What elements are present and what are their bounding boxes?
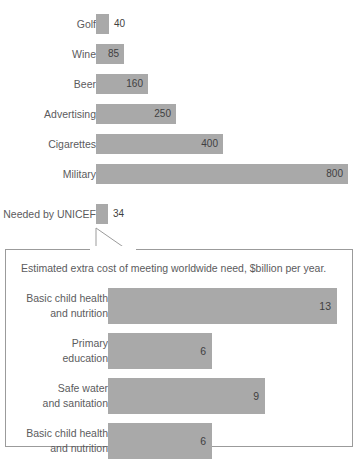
callout-row-basic-child-health-2: Basic child health and nutrition 6 [10, 423, 108, 459]
chart-row-golf: Golf 40 [0, 14, 96, 34]
category-label-line2: and sanitation [43, 397, 108, 409]
bar-value-label: 34 [113, 204, 124, 224]
bar-basic-child-health-1: 13 [108, 288, 337, 324]
chart-row-beer: Beer 160 [0, 74, 96, 94]
chart-row-military: Military 800 [0, 164, 96, 184]
category-label: Cigarettes [48, 134, 96, 154]
bar-value-label: 9 [253, 378, 259, 414]
chart-row-cigarettes: Cigarettes 400 [0, 134, 96, 154]
bar-value-label: 160 [126, 74, 143, 94]
category-label: Golf [77, 14, 96, 34]
infographic-canvas: Golf 40 Wine 85 Beer 160 Advertising 250… [0, 0, 359, 459]
callout-row-safe-water: Safe water and sanitation 9 [10, 378, 108, 414]
bar-value-label: 6 [200, 333, 206, 369]
bar-value-label: 40 [114, 14, 125, 34]
bar-value-label: 6 [200, 423, 206, 459]
chart-row-advertising: Advertising 250 [0, 104, 96, 124]
bar-cigarettes: 400 [96, 134, 223, 154]
category-label: Basic child health and nutrition [10, 426, 108, 456]
bar-value-label: 800 [326, 164, 343, 184]
bar-value-label: 400 [201, 134, 218, 154]
category-label-line2: and nutrition [50, 307, 108, 319]
bar-value-label: 13 [319, 288, 331, 324]
category-label: Primary education [10, 336, 108, 366]
callout-row-basic-child-health-1: Basic child health and nutrition 13 [10, 288, 108, 324]
bar-basic-child-health-2: 6 [108, 423, 212, 459]
bar-needed-by-unicef: 34 [96, 204, 108, 224]
category-label-line1: Basic child health [26, 292, 108, 304]
callout-caption: Estimated extra cost of meeting worldwid… [21, 262, 326, 274]
bar-beer: 160 [96, 74, 148, 94]
callout-notch-mask [90, 246, 136, 254]
bar-safe-water: 9 [108, 378, 265, 414]
category-label-line2: education [62, 352, 108, 364]
category-label: Needed by UNICEF [3, 204, 96, 224]
category-label: Wine [72, 44, 96, 64]
category-label-line1: Basic child health [26, 427, 108, 439]
category-label-line2: and nutrition [50, 442, 108, 454]
category-label: Beer [74, 74, 96, 94]
bar-military: 800 [96, 164, 348, 184]
category-label: Advertising [44, 104, 96, 124]
bar-value-label: 85 [108, 44, 119, 64]
category-label: Basic child health and nutrition [10, 291, 108, 321]
chart-row-needed-by-unicef: Needed by UNICEF 34 [0, 204, 96, 224]
chart-row-wine: Wine 85 [0, 44, 96, 64]
bar-advertising: 250 [96, 104, 176, 124]
category-label-line1: Primary [72, 337, 108, 349]
bar-primary-education: 6 [108, 333, 212, 369]
bar-value-label: 250 [154, 104, 171, 124]
callout-row-primary-education: Primary education 6 [10, 333, 108, 369]
category-label-line1: Safe water [58, 382, 108, 394]
bar-golf: 40 [96, 14, 109, 34]
bar-wine: 85 [96, 44, 124, 64]
category-label: Military [63, 164, 96, 184]
category-label: Safe water and sanitation [10, 381, 108, 411]
